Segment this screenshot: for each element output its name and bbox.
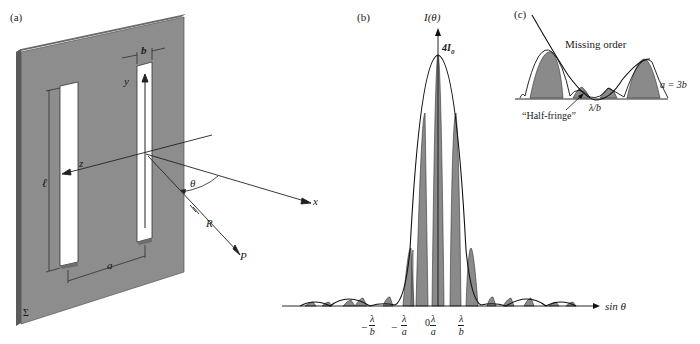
screen-sigma: [16, 14, 186, 326]
y-axis-label: y: [124, 76, 129, 87]
theta-label: θ: [190, 178, 195, 189]
lambda-over-b-label: λ/b: [589, 103, 601, 113]
missing-order-label: Missing order: [565, 39, 626, 50]
z-axis-label: z: [79, 158, 83, 169]
sin-theta-label: sin θ: [605, 301, 626, 312]
peak-label: 4I0: [442, 43, 454, 56]
panel-c-label: (c): [514, 9, 526, 20]
slit-separation-label: a: [107, 260, 113, 271]
panel-a-label: (a): [10, 12, 22, 23]
tick-sign: −: [361, 321, 367, 333]
tick-lambda-a: λa: [430, 314, 436, 337]
x-axis-label: x: [313, 196, 318, 207]
slit-length-label: ℓ: [42, 177, 47, 189]
tick-sign: −: [391, 321, 397, 333]
intensity-axis-label: I(θ): [424, 12, 440, 23]
half-fringe-label: “Half-fringe”: [522, 111, 576, 121]
diffraction-figure: [0, 0, 700, 344]
tick-neg-lambda-b: λb: [369, 314, 375, 337]
p-label: P: [240, 251, 247, 262]
panel-b-label: (b): [357, 12, 370, 23]
tick-lambda-b: λb: [458, 314, 464, 337]
slit-left: [60, 82, 78, 269]
condition-label: a = 3b: [660, 80, 687, 90]
inset-plot: [515, 15, 668, 110]
theta-arc: [182, 176, 218, 192]
slit-width-label: b: [141, 45, 147, 56]
r-label: R: [206, 218, 213, 229]
sigma-label: Σ: [23, 308, 29, 318]
tick-neg-lambda-a: λa: [401, 314, 407, 337]
